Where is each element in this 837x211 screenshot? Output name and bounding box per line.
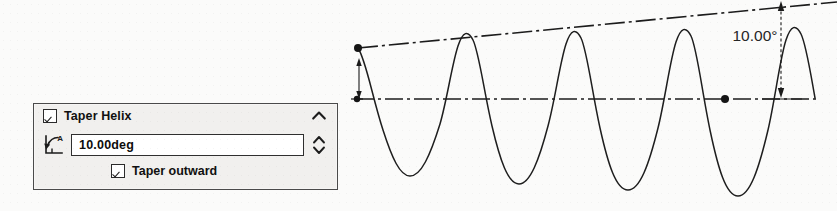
helix-start-point — [354, 44, 362, 52]
taper-angle-value: 10.00deg — [79, 138, 134, 152]
taper-outward-label: Taper outward — [132, 164, 217, 178]
taper-helix-checkbox[interactable] — [43, 109, 57, 123]
spinner-up-down-icon[interactable] — [311, 132, 327, 158]
angle-dim-arrow-bottom — [778, 88, 784, 98]
svg-text:A: A — [57, 134, 63, 143]
taper-angle-input[interactable]: 10.00deg — [71, 134, 304, 156]
taper-helix-panel[interactable]: Taper Helix A 10.00deg Taper outward — [33, 103, 338, 190]
angle-field-row: A 10.00deg — [43, 130, 329, 160]
helix-curve — [358, 27, 815, 196]
angle-dim-arrow-top — [778, 1, 784, 11]
radius-dim-arrow-top — [356, 58, 361, 66]
taper-outward-checkbox[interactable] — [111, 164, 125, 178]
taper-outward-row[interactable]: Taper outward — [111, 164, 217, 178]
taper-angle-icon: A — [43, 133, 65, 157]
panel-title: Taper Helix — [64, 109, 132, 123]
panel-header[interactable]: Taper Helix — [34, 104, 337, 128]
angle-dimension-label: 10.00° — [733, 27, 778, 44]
axis-end-point — [721, 95, 729, 103]
chevron-up-icon[interactable] — [311, 109, 327, 123]
